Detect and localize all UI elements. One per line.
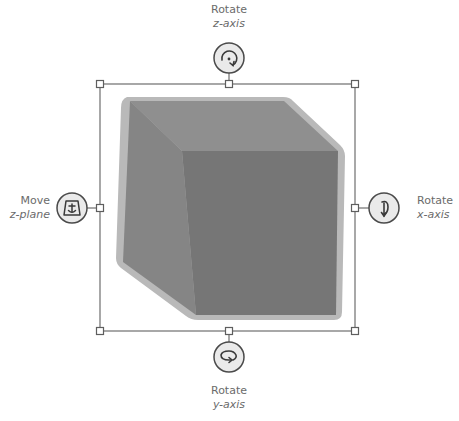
handle-top-right[interactable] [352,81,359,88]
cube-3d-object[interactable] [116,97,345,320]
label-verb: Move [0,194,50,208]
3d-object-diagram: Rotate z-axis Move z-plane Rotate x-axis… [0,0,459,421]
label-axis: x-axis [417,208,459,222]
label-axis: y-axis [199,398,259,412]
label-rotate-x-axis: Rotate x-axis [417,194,459,222]
handle-top-left[interactable] [97,81,104,88]
move-z-plane-control[interactable] [57,193,87,223]
label-verb: Rotate [199,3,259,17]
label-rotate-z-axis: Rotate z-axis [199,3,259,31]
handle-middle-right[interactable] [352,205,359,212]
rotate-x-axis-control[interactable] [369,193,399,223]
handle-bottom-right[interactable] [352,328,359,335]
diagram-canvas [0,0,459,421]
handle-bottom-left[interactable] [97,328,104,335]
rotate-z-axis-control[interactable] [214,43,244,73]
handle-bottom-middle[interactable] [226,328,233,335]
label-verb: Rotate [199,384,259,398]
label-verb: Rotate [417,194,459,208]
label-axis: z-plane [0,208,50,222]
rotate-y-axis-control[interactable] [214,342,244,372]
cube-front-face [182,151,338,315]
label-axis: z-axis [199,17,259,31]
handle-top-middle[interactable] [226,81,233,88]
handle-middle-left[interactable] [97,205,104,212]
label-rotate-y-axis: Rotate y-axis [199,384,259,412]
label-move-z-plane: Move z-plane [0,194,50,222]
